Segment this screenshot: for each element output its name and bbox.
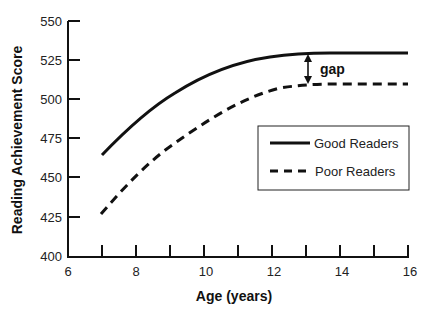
legend-item-good-readers: Good Readers: [314, 136, 399, 151]
y-axis: 550 525 500 475 450 425 400 Reading Achi…: [9, 14, 80, 264]
arrow-up-icon: [304, 54, 312, 62]
x-tick-label: 16: [403, 264, 417, 279]
reading-achievement-chart: 550 525 500 475 450 425 400 Reading Achi…: [0, 0, 429, 309]
x-tick-label: 10: [199, 264, 213, 279]
gap-label: gap: [320, 61, 345, 77]
y-tick-label: 400: [40, 249, 62, 264]
y-tick-label: 525: [40, 53, 62, 68]
x-tick-label: 12: [267, 264, 281, 279]
arrow-down-icon: [304, 76, 312, 84]
x-tick-label: 6: [64, 264, 71, 279]
x-axis: 6 8 10 12 14 16 Age (years): [64, 245, 417, 304]
gap-annotation: gap: [304, 54, 345, 84]
y-tick-label: 425: [40, 210, 62, 225]
x-tick-label: 8: [132, 264, 139, 279]
y-tick-label: 475: [40, 131, 62, 146]
x-axis-title: Age (years): [196, 288, 272, 304]
y-tick-label: 500: [40, 92, 62, 107]
x-tick-label: 14: [335, 264, 349, 279]
legend: Good Readers Poor Readers: [258, 126, 409, 190]
y-tick-label: 550: [40, 14, 62, 29]
y-axis-title: Reading Achievement Score: [9, 46, 25, 235]
legend-item-poor-readers: Poor Readers: [315, 164, 396, 179]
y-tick-label: 450: [40, 170, 62, 185]
